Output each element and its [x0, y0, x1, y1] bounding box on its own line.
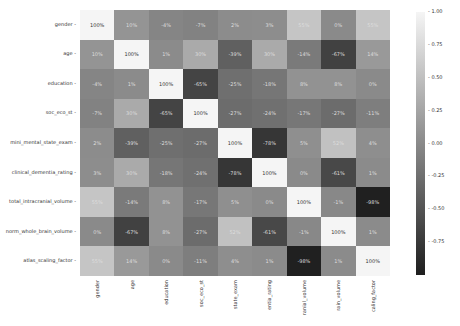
heatmap-grid: 100%10%-4%-7%2%3%55%0%55%10%100%1%30%-39… [80, 10, 390, 276]
heatmap-cell: -27% [321, 99, 355, 129]
heatmap-cell: -27% [218, 99, 252, 129]
heatmap-cell: -98% [356, 187, 390, 217]
heatmap-cell: 14% [114, 246, 148, 276]
heatmap-cell: -18% [149, 158, 183, 188]
heatmap-cell: -67% [114, 217, 148, 247]
heatmap-cell: 1% [252, 246, 286, 276]
x-tick-label: state_exam [232, 280, 238, 309]
heatmap-cell: 30% [252, 40, 286, 70]
heatmap-cell: 8% [149, 217, 183, 247]
colorbar-tick-label: - -0.25 [428, 172, 444, 178]
heatmap-cell: 5% [218, 187, 252, 217]
heatmap-cell: 8% [321, 69, 355, 99]
heatmap-cell: 100% [149, 69, 183, 99]
y-tick-label: total_intracranial_volume [9, 198, 76, 204]
heatmap-cell: 3% [80, 158, 114, 188]
heatmap-cell: 4% [356, 128, 390, 158]
heatmap-cell: -1% [321, 187, 355, 217]
heatmap-cell: -78% [252, 128, 286, 158]
heatmap-cell: 1% [114, 69, 148, 99]
colorbar-tick-label: - 0.25 [428, 107, 443, 113]
colorbar-tick-label: - 1.00 [428, 8, 443, 14]
heatmap-cell: 2% [80, 128, 114, 158]
colorbar-tick-label: - 0.50 [428, 74, 443, 80]
x-tick-label: entia_rating [266, 280, 272, 310]
heatmap-cell: 14% [356, 40, 390, 70]
heatmap-cell: 55% [80, 187, 114, 217]
heatmap-cell: 1% [321, 246, 355, 276]
x-tick-label: soc_eco_st [198, 280, 204, 307]
heatmap-cell: 1% [149, 40, 183, 70]
heatmap-cell: -17% [183, 187, 217, 217]
heatmap-cell: -78% [218, 158, 252, 188]
heatmap-cell: -65% [183, 69, 217, 99]
heatmap-cell: 0% [149, 246, 183, 276]
y-tick-label: age [63, 50, 76, 56]
heatmap-cell: 100% [80, 10, 114, 40]
heatmap-cell: -98% [287, 246, 321, 276]
heatmap-cell: -25% [218, 69, 252, 99]
y-tick-label: gender [55, 21, 76, 27]
heatmap-cell: 52% [218, 217, 252, 247]
heatmap-cell: -11% [183, 246, 217, 276]
x-tick-label: caling_factor [370, 280, 376, 312]
heatmap-cell: 0% [356, 69, 390, 99]
heatmap-cell: 0% [287, 158, 321, 188]
colorbar [416, 12, 425, 275]
heatmap-cell: -7% [80, 99, 114, 129]
heatmap-cell: 100% [321, 217, 355, 247]
x-tick-label: ranial_volume [301, 280, 307, 315]
heatmap-cell: 52% [321, 128, 355, 158]
y-tick-label: atlas_scaling_factor [23, 257, 76, 263]
heatmap-cell: -39% [218, 40, 252, 70]
heatmap-cell: 10% [80, 40, 114, 70]
heatmap-cell: 8% [149, 187, 183, 217]
heatmap-cell: 100% [287, 187, 321, 217]
heatmap-cell: -67% [321, 40, 355, 70]
heatmap-cell: 0% [321, 10, 355, 40]
heatmap-cell: 55% [356, 10, 390, 40]
heatmap-cell: 8% [287, 69, 321, 99]
colorbar-tick-label: - -0.75 [428, 238, 444, 244]
heatmap-cell: -4% [80, 69, 114, 99]
colorbar-tick-label: - -0.50 [428, 205, 444, 211]
colorbar-tick-label: - 0.00 [428, 140, 443, 146]
heatmap-cell: 3% [252, 10, 286, 40]
heatmap-cell: 0% [252, 187, 286, 217]
heatmap-cell: -24% [183, 158, 217, 188]
heatmap-cell: -24% [252, 99, 286, 129]
heatmap-cell: 30% [114, 158, 148, 188]
y-tick-label: mini_mental_state_exam [10, 139, 76, 145]
y-tick-label: soc_eco_st [46, 109, 76, 115]
heatmap-cell: 55% [80, 246, 114, 276]
heatmap-cell: -18% [252, 69, 286, 99]
heatmap-cell: -1% [287, 217, 321, 247]
heatmap-cell: 30% [114, 99, 148, 129]
heatmap-cell: -61% [321, 158, 355, 188]
heatmap-cell: -25% [149, 128, 183, 158]
heatmap-cell: 2% [218, 10, 252, 40]
heatmap-cell: 5% [287, 128, 321, 158]
x-tick-label: gender [94, 280, 100, 298]
y-tick-label: norm_whole_brain_volume [6, 228, 76, 234]
heatmap-cell: 100% [183, 99, 217, 129]
heatmap-cell: -7% [183, 10, 217, 40]
heatmap-cell: 10% [114, 10, 148, 40]
heatmap-cell: 55% [287, 10, 321, 40]
heatmap-cell: 0% [80, 217, 114, 247]
heatmap-cell: -4% [149, 10, 183, 40]
x-tick-label: age [129, 280, 135, 289]
heatmap-cell: 100% [114, 40, 148, 70]
colorbar-tick-label: - 0.75 [428, 41, 443, 47]
heatmap-cell: -11% [356, 99, 390, 129]
heatmap-cell: 100% [218, 128, 252, 158]
heatmap-cell: 100% [252, 158, 286, 188]
heatmap-cell: -61% [252, 217, 286, 247]
y-tick-label: clinical_dementia_rating [12, 169, 76, 175]
heatmap-cell: 30% [183, 40, 217, 70]
heatmap-cell: 1% [356, 158, 390, 188]
heatmap-cell: -27% [183, 217, 217, 247]
y-tick-label: education [48, 80, 76, 86]
heatmap-cell: -27% [183, 128, 217, 158]
heatmap-cell: -14% [114, 187, 148, 217]
